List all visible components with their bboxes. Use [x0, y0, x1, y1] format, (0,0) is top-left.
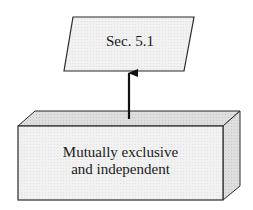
box-label: Mutually exclusive and independent [18, 144, 223, 179]
box-label-line1: Mutually exclusive [18, 144, 223, 161]
diagram-canvas [0, 0, 253, 210]
box-label-line2: and independent [18, 161, 223, 178]
box-side-face [223, 111, 240, 200]
section-label: Sec. 5.1 [70, 33, 190, 50]
